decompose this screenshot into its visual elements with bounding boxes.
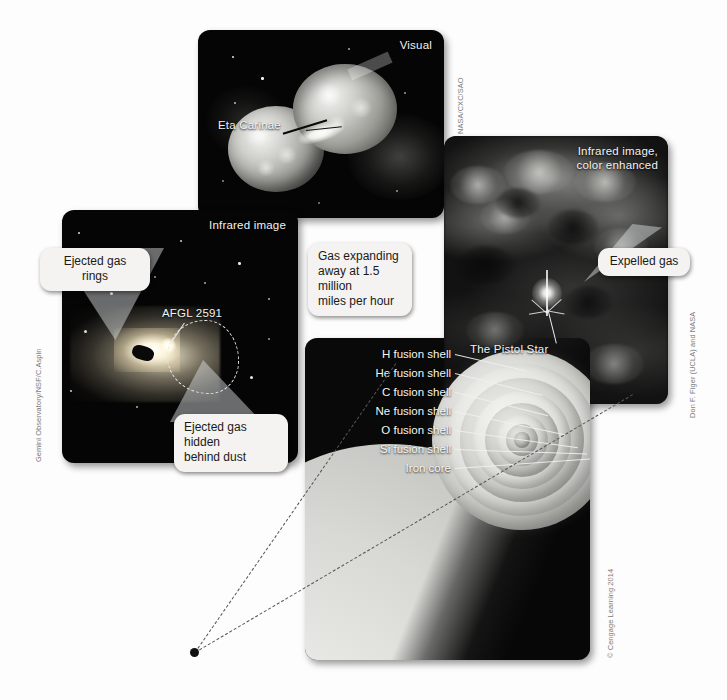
- object-label-pistol-star: The Pistol Star: [470, 342, 548, 356]
- shell-label-si: Si fusion shell: [309, 443, 451, 456]
- credit-nasa-cxc-sao: NASA/CXC/SAO: [456, 77, 465, 134]
- shell-label-c: C fusion shell: [315, 386, 451, 399]
- pistol-star-point-source: [532, 278, 562, 308]
- panel-label-visual: Visual: [400, 38, 432, 52]
- callout-ejected-gas-hidden[interactable]: Ejected gas hidden behind dust: [174, 414, 288, 472]
- shell-label-o: O fusion shell: [311, 424, 451, 437]
- object-label-afgl-2591: AFGL 2591: [162, 306, 222, 320]
- shell-label-ne: Ne fusion shell: [305, 405, 451, 418]
- panel-label-infrared-image: Infrared image: [209, 218, 286, 232]
- panel-eta-carinae-visual[interactable]: Eta Carinae Visual: [198, 30, 444, 218]
- panel-stellar-interior-diagram[interactable]: H fusion shell He fusion shell C fusion …: [305, 338, 590, 660]
- callout-gas-expanding[interactable]: Gas expanding away at 1.5 million miles …: [308, 243, 412, 316]
- credit-cengage-learning: © Cengage Learning 2014: [606, 569, 615, 658]
- shell-label-h: H fusion shell: [317, 348, 451, 361]
- onion-shell-rings: [432, 350, 590, 530]
- callout-expelled-gas[interactable]: Expelled gas: [598, 248, 690, 276]
- callout-ejected-gas-rings[interactable]: Ejected gas rings: [40, 248, 150, 291]
- panel-label-pistol-infrared: Infrared image, color enhanced: [577, 144, 658, 172]
- object-label-eta-carinae: Eta Carinae: [218, 118, 281, 132]
- shell-label-he: He fusion shell: [309, 367, 451, 380]
- credit-don-figer-nasa: Don F. Figer (UCLA) and NASA: [688, 312, 697, 418]
- credit-gemini-observatory: Gemini Observatory/NSF/C.Aspin: [34, 349, 43, 462]
- viewpoint-convergence-dot: [190, 648, 199, 657]
- shell-label-iron-core: Iron core: [329, 462, 451, 475]
- astronomy-figure: Eta Carinae Visual NASA/CXC/SAO: [0, 0, 727, 700]
